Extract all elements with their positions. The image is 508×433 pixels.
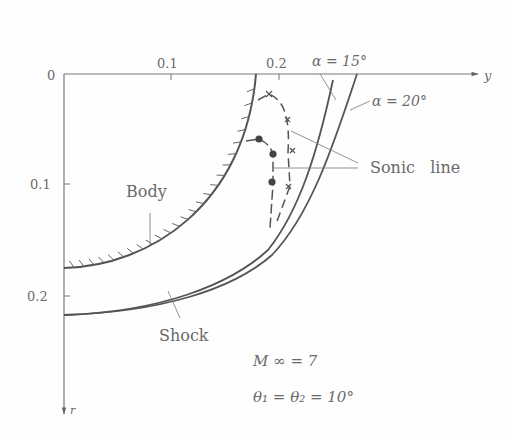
hatch-mark (188, 210, 196, 212)
h-tick-label-0.2: 0.2 (266, 56, 287, 71)
hatch-mark (79, 260, 84, 266)
mach-number-label: M ∞ = 7 (252, 352, 318, 370)
theta-label: θ₁ = θ₂ = 10° (253, 388, 354, 406)
body-hatching (69, 89, 254, 268)
hatch-mark (137, 244, 144, 249)
shock-leader-line (168, 291, 180, 318)
hatch-mark (210, 185, 218, 186)
hatch-mark (203, 194, 211, 195)
shock-curve-alpha-15 (64, 80, 333, 315)
vertical-axis-label: r (70, 404, 76, 417)
h-tick-label-0.1: 0.1 (157, 56, 178, 71)
shock-layer-diagram: 0 0.1 0.2 0.1 0.2 y r Body Shock α = 15°… (0, 0, 508, 433)
alpha20-label: α = 20° (372, 93, 427, 109)
hatch-mark (155, 235, 162, 239)
hatch-mark (172, 223, 179, 226)
hatch-mark (127, 248, 133, 253)
hatch-mark (108, 255, 114, 261)
hatch-mark (69, 261, 74, 268)
v-tick-label-0.2: 0.2 (27, 289, 48, 304)
horizontal-axis-label: y (483, 68, 492, 83)
sonic-line-alpha-15 (258, 94, 290, 224)
hatch-mark (180, 217, 188, 220)
alpha20-leader-line (350, 101, 370, 110)
shock-label: Shock (159, 326, 209, 345)
alpha15-label: α = 15° (312, 53, 367, 69)
hatch-mark (196, 202, 204, 204)
origin-label: 0 (47, 68, 55, 83)
body-label: Body (126, 182, 167, 201)
alpha15-leader-line (320, 74, 336, 100)
body-curve (64, 74, 256, 268)
sonic-line-label: Sonic line (370, 158, 460, 177)
sonic-leader-line-1 (291, 131, 358, 163)
hatch-mark (89, 259, 94, 265)
diagram-canvas: 0 0.1 0.2 0.1 0.2 y r Body Shock α = 15°… (0, 0, 508, 433)
sonic-line-alpha-15-markers (266, 91, 295, 189)
hatch-mark (118, 252, 124, 257)
v-tick-label-0.1: 0.1 (30, 177, 51, 192)
hatch-mark (164, 230, 171, 233)
hatch-mark (98, 257, 103, 263)
hatch-mark (146, 240, 153, 244)
